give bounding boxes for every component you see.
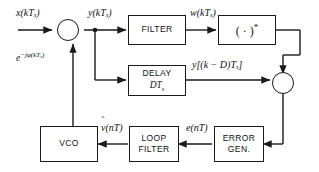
filtered-signal-label: w(kTs) (190, 8, 216, 19)
filter-block-label: FILTER (141, 25, 172, 35)
loop-filter-line1: LOOP (141, 134, 166, 144)
conjugate-block[interactable]: ( · )* (218, 15, 276, 45)
error-generator-block[interactable]: ERROR GEN. (214, 126, 264, 162)
vco-block-label: VCO (59, 139, 79, 149)
phasor-label: e−jφ(kTs) (16, 52, 44, 64)
vco-block[interactable]: VCO (40, 126, 98, 162)
error-gen-line2: GEN. (228, 145, 250, 155)
input-signal-label: x(kTs) (16, 8, 40, 19)
vco-control-signal-label: ˆv(nT) (101, 123, 123, 133)
conjugate-block-label: ( · )* (236, 22, 259, 39)
loop-filter-line2: FILTER (138, 145, 169, 155)
derotated-signal-label: y(kTs) (88, 8, 112, 19)
tap-junction-dot (93, 28, 98, 33)
block-diagram-canvas: FILTER ( · )* DELAY DTs ERROR GEN. LOOP … (0, 0, 319, 172)
error-signal-label: e(nT) (186, 123, 208, 133)
filter-block[interactable]: FILTER (128, 15, 186, 45)
input-multiplier[interactable] (57, 19, 79, 41)
delayed-signal-label: y[(k − D)Ts] (192, 60, 242, 71)
delay-block-label: DELAY (142, 69, 171, 79)
delay-block-amount: DTs (150, 80, 165, 92)
output-multiplier[interactable] (272, 72, 294, 94)
delay-block[interactable]: DELAY DTs (128, 65, 186, 96)
error-gen-line1: ERROR (223, 134, 256, 144)
loop-filter-block[interactable]: LOOP FILTER (129, 126, 179, 162)
